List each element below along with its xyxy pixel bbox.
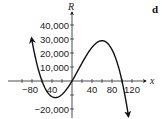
y-tick-label: 30,000 (40, 34, 69, 45)
x-tick-label: 120 (124, 84, 140, 95)
y-tick-label: 40,000 (40, 20, 69, 31)
y-tick-label: 10,000 (40, 62, 69, 73)
x-tick-label: −80 (22, 84, 38, 95)
x-tick-label: 40 (87, 84, 98, 95)
y-tick-label: 20,000 (40, 48, 69, 59)
panel-label: d (152, 3, 158, 15)
cubic-graph: x R −8040408012040,00030,00020,00010,000… (0, 0, 162, 119)
x-tick-label: 80 (107, 84, 118, 95)
y-axis-label: R (67, 1, 74, 12)
y-tick-label: −20,000 (34, 104, 69, 115)
tick-labels: −8040408012040,00030,00020,00010,000−20,… (22, 20, 140, 115)
x-axis-label: x (149, 75, 155, 86)
